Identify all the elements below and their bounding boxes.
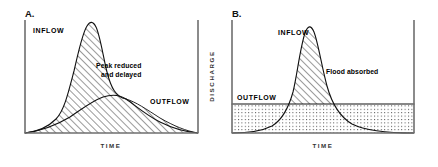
hydrograph-figure: A. INFLOW OUTFLOW Peak reduced: [0, 0, 438, 167]
panel-a-letter: A.: [25, 8, 35, 19]
panel-b-inflow-label: INFLOW: [278, 29, 309, 36]
y-axis-title-discharge: DISCHARGE: [208, 50, 215, 102]
figure-canvas: A. INFLOW OUTFLOW Peak reduced: [0, 0, 438, 167]
panel-b-annotation-line1: Flood absorbed: [326, 68, 378, 75]
panel-a-annotation-line2: and delayed: [101, 71, 141, 79]
panel-a-inflow-label: INFLOW: [33, 27, 64, 34]
panel-a-outflow-label: OUTFLOW: [150, 98, 190, 105]
panel-a-x-axis-title: TIME: [100, 142, 121, 149]
panel-a-annotation-line1: Peak reduced: [96, 62, 141, 69]
panel-b-outflow-label: OUTFLOW: [237, 94, 277, 101]
panel-b-letter: B.: [232, 8, 242, 19]
figure-background: [0, 0, 438, 167]
panel-b-outflow-fill: [232, 104, 414, 133]
panel-b-x-axis-title: TIME: [312, 142, 333, 149]
